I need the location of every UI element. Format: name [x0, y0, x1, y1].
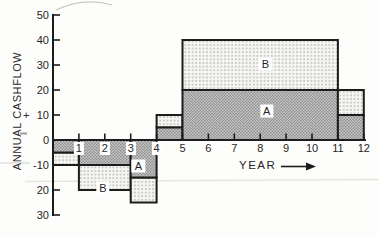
x-tick-label: 7	[231, 142, 237, 155]
x-tick-label: 3	[126, 142, 136, 155]
series-B-region	[131, 178, 157, 203]
x-tick-label: 11	[332, 142, 343, 155]
region-label-B: B	[259, 57, 272, 70]
y-tick-label: 30	[0, 208, 49, 222]
y-tick-label: 20	[0, 183, 49, 197]
y-tick-label: 20	[0, 83, 49, 97]
x-tick-label: 10	[306, 142, 318, 155]
series-A-region	[338, 115, 364, 140]
region-label-A: A	[260, 105, 273, 118]
cashflow-step-chart: ANNUAL CASHFLOW + YEAR 50403020100-10203…	[0, 0, 379, 237]
x-tick-label: 1	[74, 142, 84, 155]
x-tick-label: 5	[179, 142, 185, 155]
chart-regions	[53, 40, 364, 203]
region-label-B: B	[96, 181, 109, 194]
right-arrow-icon	[306, 163, 316, 171]
x-tick-label: 2	[100, 142, 110, 155]
x-axis-title: YEAR	[239, 159, 276, 171]
x-tick-label: 8	[257, 142, 263, 155]
x-tick-label: 6	[205, 142, 211, 155]
y-tick-label: 0	[0, 133, 49, 147]
x-tick-label: 4	[152, 142, 162, 155]
series-B-region	[338, 90, 364, 115]
region-label-A: A	[132, 160, 145, 173]
y-tick-label: 40	[0, 33, 49, 47]
series-A-region	[157, 128, 183, 141]
x-tick-label: 9	[283, 142, 289, 155]
y-tick-label: 10	[0, 108, 49, 122]
series-B-region	[157, 115, 183, 128]
y-tick-label: 30	[0, 58, 49, 72]
scan-artifact-curve	[56, 2, 112, 10]
x-tick-label: 12	[358, 142, 370, 155]
y-tick-label: -10	[0, 158, 49, 172]
y-tick-label: 50	[0, 8, 49, 22]
chart-canvas	[0, 0, 379, 237]
